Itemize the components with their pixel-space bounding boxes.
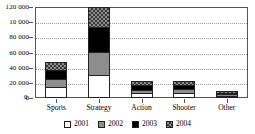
bar-group[interactable]	[45, 62, 67, 98]
bar-segment[interactable]	[88, 52, 110, 75]
bar-segment[interactable]	[131, 93, 153, 98]
y-tick-label: 10 000	[9, 19, 29, 26]
legend-swatch	[98, 121, 105, 128]
bar-segment[interactable]	[88, 7, 110, 27]
legend-swatch	[132, 121, 139, 128]
legend-label: 2004	[176, 120, 191, 128]
y-tick-mark	[29, 83, 33, 84]
legend-swatch	[166, 121, 173, 128]
y-tick-mark	[29, 7, 33, 8]
legend-item[interactable]: 2002	[98, 120, 123, 128]
legend-item[interactable]: 2001	[64, 120, 89, 128]
y-tick-mark	[29, 22, 33, 23]
x-tick-label: Shooter	[172, 104, 195, 112]
legend: 2001200220032004	[0, 120, 255, 128]
bar-group[interactable]	[131, 81, 153, 98]
bar-segment[interactable]	[216, 96, 238, 98]
y-tick-label: 40 000	[9, 64, 29, 71]
legend-item[interactable]: 2004	[166, 120, 191, 128]
x-tick-label: Sports	[47, 104, 66, 112]
x-tick-label: Action	[131, 104, 151, 112]
stacked-bar-chart: 120 00010 00080 00060 00040 00020 0000 S…	[0, 0, 255, 134]
legend-label: 2002	[108, 120, 123, 128]
y-tick-mark	[29, 68, 33, 69]
legend-swatch	[64, 121, 71, 128]
bar-group[interactable]	[173, 81, 195, 98]
y-axis: 120 00010 00080 00060 00040 00020 0000	[0, 0, 33, 105]
bar-segment[interactable]	[45, 62, 67, 70]
y-tick-label: 60 000	[9, 49, 29, 56]
bar-segment[interactable]	[88, 75, 110, 99]
legend-label: 2003	[142, 120, 157, 128]
bar-segment[interactable]	[45, 70, 67, 79]
bar-group[interactable]	[216, 91, 238, 98]
y-tick-label: 80 000	[9, 34, 29, 41]
y-tick-label-zero: 0	[24, 94, 28, 101]
bar-segment[interactable]	[173, 93, 195, 98]
y-tick-mark	[29, 98, 33, 99]
y-tick-label: 120 000	[6, 4, 29, 11]
y-tick-mark	[29, 37, 33, 38]
x-axis: SportsStrategyActionShooterOther	[35, 99, 248, 113]
x-tick-label: Strategy	[86, 104, 111, 112]
x-tick-label: Other	[218, 104, 235, 112]
bars-layer	[35, 7, 248, 98]
y-tick-label: 20 000	[9, 79, 29, 86]
legend-item[interactable]: 2003	[132, 120, 157, 128]
bar-segment[interactable]	[88, 27, 110, 51]
y-tick-mark	[29, 53, 33, 54]
bar-segment[interactable]	[45, 79, 67, 87]
legend-label: 2001	[74, 120, 89, 128]
bar-group[interactable]	[88, 7, 110, 98]
bar-segment[interactable]	[45, 87, 67, 98]
